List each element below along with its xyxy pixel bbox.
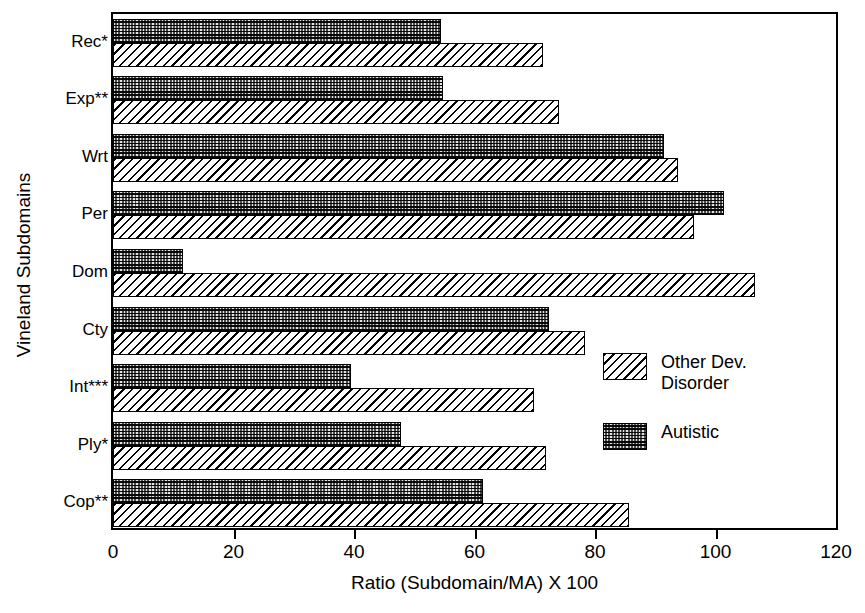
- bar-autistic-Per: [113, 191, 724, 215]
- bar-other-dev-disorder-Exp: [113, 100, 559, 124]
- bar-chart: Vineland Subdomains Rec*Exp**WrtPerDomCt…: [0, 0, 865, 613]
- y-axis-label-Cop: Cop**: [64, 493, 108, 510]
- legend-entry-autistic: Autistic: [603, 422, 719, 450]
- legend-swatch-diagonal-hatch: [603, 353, 647, 380]
- y-axis-label-Dom: Dom: [72, 263, 108, 280]
- bar-other-dev-disorder-Cty: [113, 331, 585, 355]
- x-tick-40: [354, 530, 356, 539]
- x-tick-label-100: 100: [700, 541, 732, 563]
- x-tick-60: [475, 530, 477, 539]
- bar-autistic-Rec: [113, 19, 441, 43]
- bar-autistic-Dom: [113, 249, 183, 273]
- bar-autistic-Wrt: [113, 134, 664, 158]
- plot-area: [111, 12, 838, 530]
- y-axis-label-Exp: Exp**: [65, 90, 108, 107]
- x-tick-100: [716, 530, 718, 539]
- legend-label: Autistic: [661, 422, 719, 443]
- bars-container: [113, 14, 836, 528]
- bar-autistic-Cop: [113, 479, 483, 503]
- y-axis-label-Int: Int***: [69, 378, 108, 395]
- x-tick-label-0: 0: [108, 541, 119, 563]
- x-tick-label-80: 80: [584, 541, 605, 563]
- bar-autistic-Exp: [113, 76, 443, 100]
- x-axis-title: Ratio (Subdomain/MA) X 100: [111, 572, 838, 594]
- y-axis-label-Rec: Rec*: [71, 33, 108, 50]
- y-axis-label-Cty: Cty: [83, 321, 109, 338]
- x-tick-80: [595, 530, 597, 539]
- bar-other-dev-disorder-Dom: [113, 273, 755, 297]
- bar-other-dev-disorder-Per: [113, 215, 694, 239]
- legend-swatch-dark-stipple: [603, 423, 647, 450]
- legend-entry-other-dev-disorder: Other Dev. Disorder: [603, 352, 747, 394]
- bar-autistic-Cty: [113, 307, 549, 331]
- y-axis-label-Wrt: Wrt: [82, 148, 108, 165]
- y-axis-title-text: Vineland Subdomains: [13, 173, 35, 358]
- x-tick-label-60: 60: [464, 541, 485, 563]
- y-axis-label-Ply: Ply*: [78, 436, 108, 453]
- bar-other-dev-disorder-Int: [113, 388, 534, 412]
- legend-label: Other Dev. Disorder: [661, 352, 747, 394]
- x-tick-label-40: 40: [343, 541, 364, 563]
- y-axis-category-labels: Rec*Exp**WrtPerDomCtyInt***Ply*Cop**: [36, 12, 110, 530]
- x-tick-label-20: 20: [223, 541, 244, 563]
- y-axis-label-Per: Per: [82, 205, 108, 222]
- bar-autistic-Ply: [113, 422, 401, 446]
- bar-autistic-Int: [113, 364, 351, 388]
- x-tick-20: [234, 530, 236, 539]
- bar-other-dev-disorder-Ply: [113, 446, 546, 470]
- bar-other-dev-disorder-Wrt: [113, 158, 678, 182]
- x-tick-label-120: 120: [820, 541, 852, 563]
- bar-other-dev-disorder-Rec: [113, 43, 543, 67]
- bar-other-dev-disorder-Cop: [113, 503, 629, 527]
